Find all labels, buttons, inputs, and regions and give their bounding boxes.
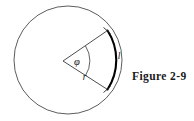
angle-label: φ	[74, 56, 80, 67]
radius-label: r	[83, 72, 87, 82]
upper-radius-line	[63, 31, 108, 62]
circle-sector-diagram: φ r l	[0, 0, 194, 121]
highlighted-arc	[108, 31, 117, 90]
figure-caption: Figure 2-9	[132, 70, 187, 82]
outer-circle	[14, 6, 122, 114]
figure-container: φ r l Figure 2-9	[0, 0, 194, 121]
arc-length-label: l	[118, 51, 121, 61]
